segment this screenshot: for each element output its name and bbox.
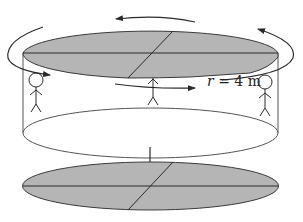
person-center-icon	[148, 78, 158, 105]
rotation-arrow-front-icon	[115, 84, 195, 88]
person-left-icon	[29, 73, 43, 112]
rotation-arrow-top-icon	[116, 17, 195, 22]
rotating-cylinder-diagram: r = 4 m	[0, 0, 303, 222]
radius-value: = 4 m	[214, 73, 261, 89]
radius-label: r = 4 m	[207, 73, 261, 89]
lower-disk	[23, 162, 279, 210]
top-disk	[23, 31, 278, 78]
